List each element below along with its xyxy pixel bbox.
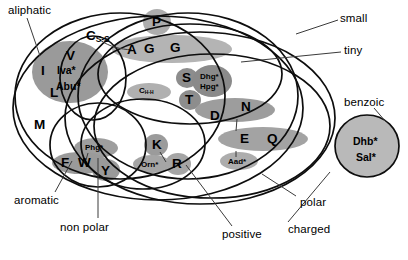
residue-R: R [172, 156, 182, 171]
set-label-positive: positive [222, 228, 262, 240]
residue-L: L [50, 85, 58, 100]
residue-V: V [66, 48, 75, 63]
residue-C-HH: CH-H [139, 86, 154, 95]
set-label-aliphatic: aliphatic [8, 4, 51, 16]
residue-E: E [240, 131, 249, 146]
set-aliphatic [15, 13, 225, 179]
set-label-non-polar: non polar [60, 221, 109, 233]
residue-K: K [152, 137, 162, 152]
residue-C-SS: CS-S [86, 28, 110, 44]
residue-Orn: Orn* [141, 160, 158, 169]
residue-Abu: Abu* [56, 80, 81, 92]
residue-Aad: Aad* [228, 157, 246, 166]
residue-D: D [210, 108, 220, 123]
residue-C-SS-base: C [86, 28, 96, 43]
set-label-aromatic: aromatic [14, 194, 59, 206]
residue-W: W [78, 155, 91, 170]
set-label-charged: charged [288, 223, 330, 235]
residue-Iva: Iva* [57, 64, 76, 76]
residue-A: A [127, 42, 137, 57]
residue-Sal: Sal* [356, 151, 376, 163]
residue-C-SS-sub: S-S [96, 34, 110, 44]
residue-G-2: G [170, 40, 181, 55]
venn-diagram-figure: aliphatic small tiny benzoic aromatic no… [0, 0, 408, 260]
set-label-benzoic: benzoic [344, 96, 384, 108]
leader-aliphatic [27, 18, 40, 56]
residue-T: T [185, 92, 193, 107]
residue-Dhb: Dhb* [353, 135, 378, 147]
residue-Y: Y [101, 163, 110, 178]
residue-F: F [61, 155, 69, 170]
leader-small [296, 20, 338, 34]
set-label-polar: polar [300, 196, 326, 208]
residue-Phg: Phg* [85, 143, 103, 152]
residue-P: P [152, 14, 161, 29]
residue-M: M [34, 117, 45, 132]
residue-C-HH-sub: H-H [145, 90, 154, 95]
leader-benzoic [374, 108, 386, 122]
set-label-small: small [340, 12, 367, 24]
leader-orn-r [160, 152, 166, 162]
set-non-polar [13, 16, 303, 200]
residue-Dhg: Dhg* [200, 72, 219, 81]
residue-Hpg: Hpg* [200, 82, 219, 91]
residue-Q: Q [267, 131, 278, 146]
residue-S: S [182, 70, 191, 85]
set-label-tiny: tiny [344, 44, 362, 56]
leader-dn-eq [236, 119, 237, 131]
residue-I: I [41, 63, 45, 78]
residue-N: N [241, 99, 251, 114]
residue-G-1: G [144, 41, 155, 56]
